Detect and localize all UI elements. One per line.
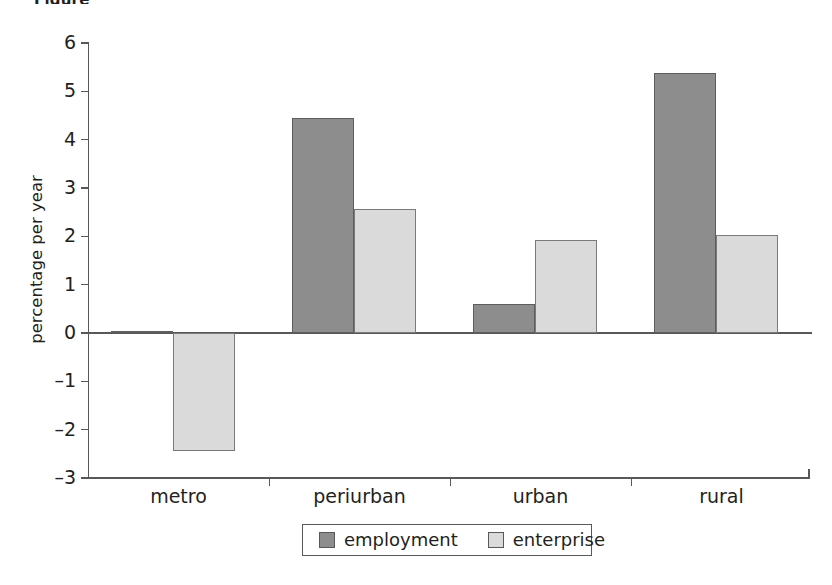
x-axis-separator-tick xyxy=(269,477,270,486)
chart-legend: employmententerprise xyxy=(302,524,592,556)
bar-enterprise-rural xyxy=(716,235,778,333)
bar-enterprise-periurban xyxy=(354,209,416,333)
legend-swatch-icon xyxy=(319,532,335,548)
x-axis-separator-tick xyxy=(450,477,451,486)
bar-enterprise-metro xyxy=(173,333,235,451)
legend-entry-enterprise[interactable]: enterprise xyxy=(488,531,605,549)
x-axis-line xyxy=(88,477,810,479)
bar-enterprise-urban xyxy=(535,240,597,333)
legend-label: employment xyxy=(344,531,458,549)
bar-employment-rural xyxy=(654,73,716,333)
legend-entry-employment[interactable]: employment xyxy=(319,531,458,549)
x-axis-category-label: metro xyxy=(88,486,269,508)
x-axis-separator-tick xyxy=(631,477,632,486)
bar-chart: percentage per year 6543210–1–2–3 metrop… xyxy=(0,0,832,585)
x-axis-end-tick xyxy=(808,469,810,478)
legend-label: enterprise xyxy=(513,531,605,549)
bar-employment-urban xyxy=(473,304,535,333)
x-axis-category-label: urban xyxy=(450,486,631,508)
legend-swatch-icon xyxy=(488,532,504,548)
x-axis-category-label: periurban xyxy=(269,486,450,508)
bar-employment-metro xyxy=(111,331,173,334)
bar-employment-periurban xyxy=(292,118,354,333)
x-axis-category-label: rural xyxy=(631,486,812,508)
plot-area xyxy=(88,43,812,478)
